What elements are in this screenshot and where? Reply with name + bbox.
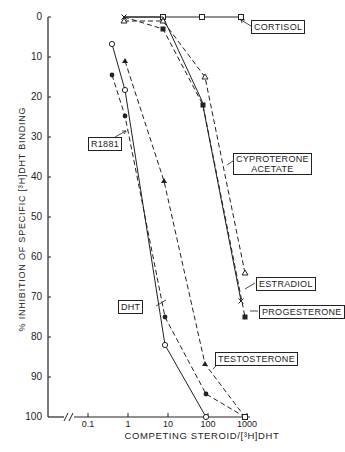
label-cyproterone-line1: CYPROTERONE (236, 154, 309, 164)
y-tick-label: 30 (20, 131, 42, 142)
label-r1881: R1881 (88, 137, 122, 151)
y-tick-label: 10 (20, 51, 42, 62)
label-dht: DHT (118, 300, 143, 314)
label-cyproterone-acetate: CYPROTERONE ACETATE (233, 153, 312, 175)
y-tick-label: 80 (20, 331, 42, 342)
x-axis-label: COMPETING STEROID/[³H]DHT (60, 430, 344, 441)
y-tick-label: 0 (20, 11, 42, 22)
y-tick-label: 40 (20, 171, 42, 182)
y-tick-label: 70 (20, 291, 42, 302)
annotation-arrows (115, 20, 258, 369)
y-tick-label: 60 (20, 251, 42, 262)
y-tick-label: 90 (20, 371, 42, 382)
x-tick-label: 0.1 (68, 419, 108, 429)
label-cortisol: CORTISOL (251, 20, 305, 34)
y-tick-label: 100 (20, 411, 42, 422)
label-progesterone: PROGESTERONE (259, 305, 345, 319)
x-tick-label: 1 (108, 419, 148, 429)
x-tick-label: 10 (148, 419, 188, 429)
y-tick-label: 20 (20, 91, 42, 102)
label-estradiol: ESTRADIOL (256, 277, 316, 291)
x-tick-label: 100 (188, 419, 228, 429)
series-dht (109, 41, 208, 419)
series-progesterone (124, 17, 248, 320)
x-tick-label: 1000 (227, 419, 267, 429)
y-tick-label: 50 (20, 211, 42, 222)
series-cyproterone-acetate (122, 15, 244, 304)
label-cyproterone-line2: ACETATE (236, 164, 309, 174)
label-testosterone: TESTOSTERONE (215, 352, 298, 366)
